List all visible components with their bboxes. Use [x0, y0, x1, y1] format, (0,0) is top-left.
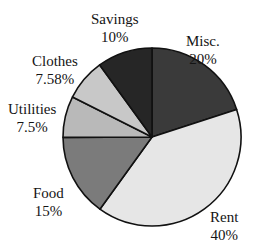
label-savings: Savings 10%: [91, 10, 139, 46]
label-food-name: Food: [33, 184, 64, 202]
label-clothes: Clothes 7.58%: [32, 52, 78, 88]
label-utilities: Utilities 7.5%: [8, 100, 56, 136]
label-utilities-pct: 7.5%: [8, 118, 56, 136]
label-misc-name: Misc.: [186, 32, 220, 50]
label-food: Food 15%: [33, 184, 64, 220]
label-misc: Misc. 20%: [186, 32, 220, 68]
label-food-pct: 15%: [33, 202, 64, 220]
label-utilities-name: Utilities: [8, 100, 56, 118]
label-clothes-pct: 7.58%: [32, 70, 78, 88]
label-savings-name: Savings: [91, 10, 139, 28]
label-clothes-name: Clothes: [32, 52, 78, 70]
label-misc-pct: 20%: [186, 50, 220, 68]
label-rent: Rent 40%: [210, 208, 238, 244]
label-savings-pct: 10%: [91, 28, 139, 46]
label-rent-name: Rent: [210, 208, 238, 226]
label-rent-pct: 40%: [210, 226, 238, 244]
